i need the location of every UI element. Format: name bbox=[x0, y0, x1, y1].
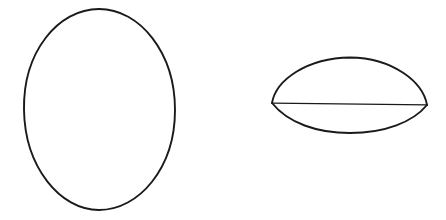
lens-upper-dome-arc bbox=[272, 58, 427, 106]
ellipse-shape-group bbox=[24, 9, 175, 210]
shapes-svg bbox=[0, 0, 446, 220]
lens-shape-group bbox=[272, 58, 427, 134]
lens-lower-shallow-arc bbox=[272, 103, 427, 133]
lens-horizontal-chord-line bbox=[273, 103, 428, 105]
hand-drawn-ellipse-outline bbox=[24, 9, 175, 210]
figure-canvas bbox=[0, 0, 446, 220]
